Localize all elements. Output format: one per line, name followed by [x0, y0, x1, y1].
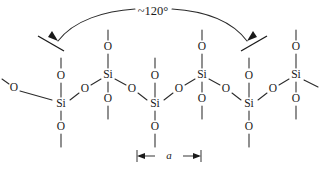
atom-o-above-si-upper-1: O [104, 40, 112, 52]
atom-o-below-si-upper-3: O [292, 92, 300, 104]
bond-obridge-1-si-upper-1 [91, 79, 101, 85]
atom-si-lower-3: Si [244, 97, 254, 109]
angle-arc-left-segment [58, 9, 135, 41]
atom-o-terminal-left: O [10, 81, 18, 93]
bond-si-upper-2-obridge-4 [209, 79, 220, 85]
atom-o-above-si-lower-3: O [245, 69, 253, 81]
atom-si-upper-1: Si [103, 68, 113, 80]
bond-obridge-3-si-upper-2 [185, 79, 195, 85]
bond-angle-annotation: ~120° [38, 4, 267, 51]
angle-arrow-right-head [247, 31, 257, 41]
atom-o-bridge-2: O [128, 82, 136, 94]
atom-o-below-si-lower-1: O [57, 120, 65, 132]
atom-o-above-si-upper-2: O [198, 40, 206, 52]
atom-si-upper-2: Si [197, 68, 207, 80]
atom-si-lower-2: Si [150, 97, 160, 109]
atom-o-bridge-3: O [175, 82, 183, 94]
atom-o-below-si-lower-2: O [151, 120, 159, 132]
lattice-parameter-label: a [166, 149, 172, 161]
bond-si-upper-3-right-stub [304, 80, 318, 87]
atom-o-bridge-5: O [269, 82, 277, 94]
bond-si-upper-1-obridge-2 [115, 79, 126, 85]
bond-si-lower-2-obridge-3 [164, 93, 173, 100]
atom-o-above-si-lower-2: O [151, 69, 159, 81]
atom-o-above-si-upper-3: O [292, 40, 300, 52]
bond-oterm-si-lower-1 [20, 91, 52, 100]
bond-si-lower-1-obridge-1 [70, 93, 79, 100]
bond-angle-label: ~120° [138, 4, 169, 18]
atom-si-upper-3: Si [291, 68, 301, 80]
bond-terminal-left-stub [2, 79, 9, 84]
atom-o-below-si-upper-1: O [104, 92, 112, 104]
atom-o-below-si-lower-3: O [245, 120, 253, 132]
atom-si-lower-1: Si [56, 97, 66, 109]
atom-o-bridge-1: O [81, 82, 89, 94]
dim-arrow-left-head [137, 153, 145, 159]
atom-o-above-si-lower-1: O [57, 69, 65, 81]
structure-canvas: ~120° [0, 0, 329, 171]
atom-o-bridge-4: O [222, 82, 230, 94]
silica-structure-figure: ~120° [0, 0, 329, 171]
angle-arc-right-segment [172, 9, 247, 41]
bond-obridge-5-si-upper-3 [279, 79, 289, 85]
lattice-dimension-marker: a [137, 149, 201, 162]
bond-obridge-4-si-lower-3 [232, 93, 241, 100]
bond-si-lower-3-obridge-5 [258, 93, 267, 100]
bond-obridge-2-si-lower-2 [138, 93, 147, 100]
atom-o-below-si-upper-2: O [198, 92, 206, 104]
dim-arrow-right-head [193, 153, 201, 159]
angle-arrow-left-head [48, 31, 58, 41]
